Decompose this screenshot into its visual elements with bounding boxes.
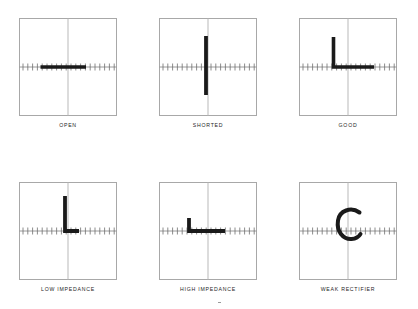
- panel-open-graticule: [19, 18, 117, 116]
- panel-caption-low-impedance: LOW IMPEDANCE: [7, 286, 129, 292]
- panel-caption-good: GOOD: [287, 122, 409, 128]
- panel-caption-high-impedance: HIGH IMPEDANCE: [147, 286, 269, 292]
- panel-open: OPEN: [19, 18, 117, 116]
- panel-high-impedance-graticule: [159, 182, 257, 280]
- panel-good: GOOD: [299, 18, 397, 116]
- panel-low-impedance: LOW IMPEDANCE: [19, 182, 117, 280]
- panel-weak-rectifier: WEAK RECTIFIER: [299, 182, 397, 280]
- curve-tracer-signature-figure: OPEN SHORTED: [0, 0, 418, 309]
- panel-shorted-graticule: [159, 18, 257, 116]
- panel-high-impedance: HIGH IMPEDANCE: [159, 182, 257, 280]
- panel-weak-rectifier-graticule: [299, 182, 397, 280]
- panel-caption-shorted: SHORTED: [147, 122, 269, 128]
- scan-artifact-speck: [218, 302, 221, 303]
- panel-caption-open: OPEN: [7, 122, 129, 128]
- panel-shorted: SHORTED: [159, 18, 257, 116]
- panel-good-graticule: [299, 18, 397, 116]
- panel-low-impedance-graticule: [19, 182, 117, 280]
- panel-caption-weak-rectifier: WEAK RECTIFIER: [287, 286, 409, 292]
